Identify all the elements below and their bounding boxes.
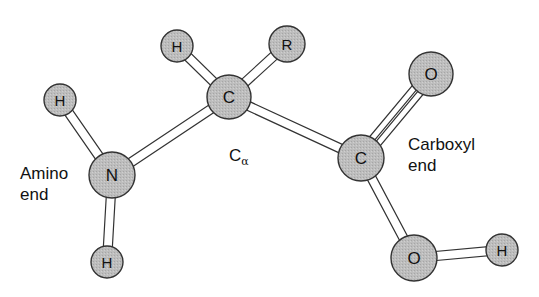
amino-acid-diagram: HNHHCRCOOH Amino end Cα Carboxyl end xyxy=(0,0,539,297)
carboxyl-end-line1: Carboxyl xyxy=(408,134,475,155)
atom-o_double: O xyxy=(409,52,453,96)
atom-h_amino_bottom: H xyxy=(91,246,123,278)
atom-h_alpha: H xyxy=(161,30,193,62)
atom-label: H xyxy=(55,92,66,109)
atom-n: N xyxy=(89,152,135,198)
amino-end-label: Amino end xyxy=(20,163,68,205)
carboxyl-end-label: Carboxyl end xyxy=(408,134,475,176)
atom-label: R xyxy=(282,36,293,53)
atom-c_alpha: C xyxy=(207,75,251,119)
atom-label: O xyxy=(407,249,420,268)
atom-h_hydroxyl: H xyxy=(486,234,518,266)
atom-label: C xyxy=(355,149,367,168)
atom-label: C xyxy=(223,88,235,107)
atom-r_group: R xyxy=(269,26,305,62)
amino-end-line2: end xyxy=(20,184,68,205)
amino-end-line1: Amino xyxy=(20,163,68,184)
atom-c_carboxyl: C xyxy=(338,135,384,181)
alpha-carbon-letter: C xyxy=(229,146,241,165)
atom-label: O xyxy=(424,65,437,84)
atom-label: H xyxy=(102,254,113,271)
atom-label: N xyxy=(106,166,118,185)
atom-h_amino_top: H xyxy=(44,84,76,116)
alpha-subscript: α xyxy=(241,155,248,168)
atom-label: H xyxy=(172,38,183,55)
atom-label: H xyxy=(497,242,508,259)
carboxyl-end-line2: end xyxy=(408,155,475,176)
alpha-carbon-label: Cα xyxy=(229,146,249,168)
atom-o_hydroxyl: O xyxy=(391,235,437,281)
